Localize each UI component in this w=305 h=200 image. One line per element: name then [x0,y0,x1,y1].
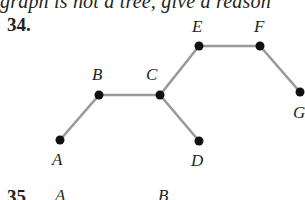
vertex-label-c: C [146,65,158,84]
graph-diagram: ABCDEFG [0,0,305,200]
problem-number-35: 35. [7,186,31,200]
vertex-label-b: B [92,65,103,84]
graph-nodes [56,42,305,146]
vertex-label-e: E [191,17,203,36]
vertex-label-d: D [190,151,204,170]
vertex-a [56,136,65,145]
edge-a-b [60,95,99,140]
vertex-b [95,91,104,100]
next-vertex-label-a: A [55,186,65,200]
vertex-g [296,88,305,97]
vertex-label-f: F [253,17,265,36]
vertex-label-g: G [293,103,305,122]
vertex-label-a: A [51,150,63,169]
edge-f-g [260,46,300,92]
vertex-c [156,91,165,100]
vertex-f [256,42,265,51]
next-vertex-label-b: B [158,186,168,200]
edge-c-e [160,46,199,95]
vertex-e [195,42,204,51]
vertex-d [195,137,204,146]
graph-labels: ABCDEFG [51,17,305,170]
edge-c-d [160,95,199,141]
